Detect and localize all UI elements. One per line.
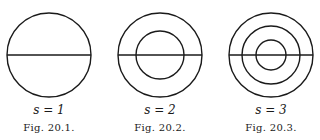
fig-caption-1: Fig. 20.1.: [0, 122, 99, 133]
figures-canvas: [0, 0, 320, 140]
figure-20-2: [118, 13, 202, 97]
s-label-3: s = 3: [221, 103, 320, 117]
figure-20-1: [7, 13, 91, 97]
fig-caption-2: Fig. 20.2.: [110, 122, 210, 133]
figure-20-3: [229, 13, 313, 97]
fig-caption-3: Fig. 20.3.: [221, 122, 320, 133]
s-label-1: s = 1: [0, 103, 99, 117]
s-label-2: s = 2: [110, 103, 210, 117]
